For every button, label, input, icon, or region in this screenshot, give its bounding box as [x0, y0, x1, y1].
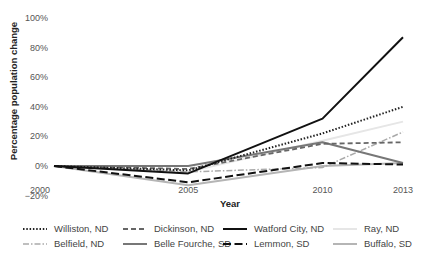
- y-tick-label: 0%: [35, 161, 48, 171]
- legend-item: Buffalo, SD: [332, 238, 426, 249]
- legend-item: Ray, ND: [332, 223, 426, 234]
- legend-label: Ray, ND: [364, 223, 399, 234]
- legend-swatch-icon: [22, 225, 48, 233]
- y-axis-ticks: 100%80%60%40%20%0%−20%: [25, 13, 48, 201]
- legend-swatch-icon: [122, 240, 148, 248]
- y-tick-label: 20%: [30, 131, 48, 141]
- legend-label: Watford City, ND: [254, 223, 324, 234]
- legend-swatch-icon: [332, 225, 358, 233]
- legend-item: Watford City, ND: [222, 223, 332, 234]
- legend-label: Belfield, ND: [54, 238, 104, 249]
- legend-label: Williston, ND: [54, 223, 108, 234]
- y-axis-title: Percentage population change: [8, 22, 19, 160]
- legend-swatch-icon: [222, 225, 248, 233]
- legend-item: Dickinson, ND: [122, 223, 222, 234]
- legend-item: Belfield, ND: [22, 238, 122, 249]
- legend-item: Belle Fourche, SD: [122, 238, 222, 249]
- legend-label: Dickinson, ND: [154, 223, 214, 234]
- x-axis-ticks: 2000200520102013: [30, 185, 413, 195]
- legend-label: Belle Fourche, SD: [154, 238, 231, 249]
- legend-swatch-icon: [332, 240, 358, 248]
- y-tick-label: 60%: [30, 72, 48, 82]
- y-tick-label: 80%: [30, 43, 48, 53]
- y-tick-label: 100%: [25, 13, 48, 23]
- legend-label: Lemmon, SD: [254, 238, 309, 249]
- x-tick-label: 2000: [30, 185, 50, 195]
- y-tick-label: 40%: [30, 102, 48, 112]
- legend-label: Buffalo, SD: [364, 238, 412, 249]
- legend-swatch-icon: [222, 240, 248, 248]
- x-tick-label: 2013: [393, 185, 413, 195]
- legend-swatch-icon: [122, 225, 148, 233]
- series-lines: [54, 37, 403, 185]
- series-line: [54, 107, 403, 171]
- chart-legend: Williston, ND Dickinson, ND Watford City…: [22, 223, 426, 249]
- series-line: [54, 37, 403, 173]
- legend-item: Williston, ND: [22, 223, 122, 234]
- x-tick-label: 2010: [312, 185, 332, 195]
- legend-swatch-icon: [22, 240, 48, 248]
- x-tick-label: 2005: [178, 185, 198, 195]
- legend-item: Lemmon, SD: [222, 238, 332, 249]
- x-axis-title: Year: [220, 198, 240, 209]
